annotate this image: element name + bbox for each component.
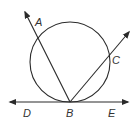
label-e: E — [108, 107, 116, 119]
circle — [30, 22, 110, 102]
label-a: A — [34, 16, 42, 28]
geometry-diagram: A C D B E — [0, 0, 137, 125]
label-b: B — [66, 107, 73, 119]
label-d: D — [23, 107, 31, 119]
ray-ba — [25, 12, 70, 102]
ray-bc — [70, 32, 129, 102]
label-c: C — [112, 54, 120, 66]
